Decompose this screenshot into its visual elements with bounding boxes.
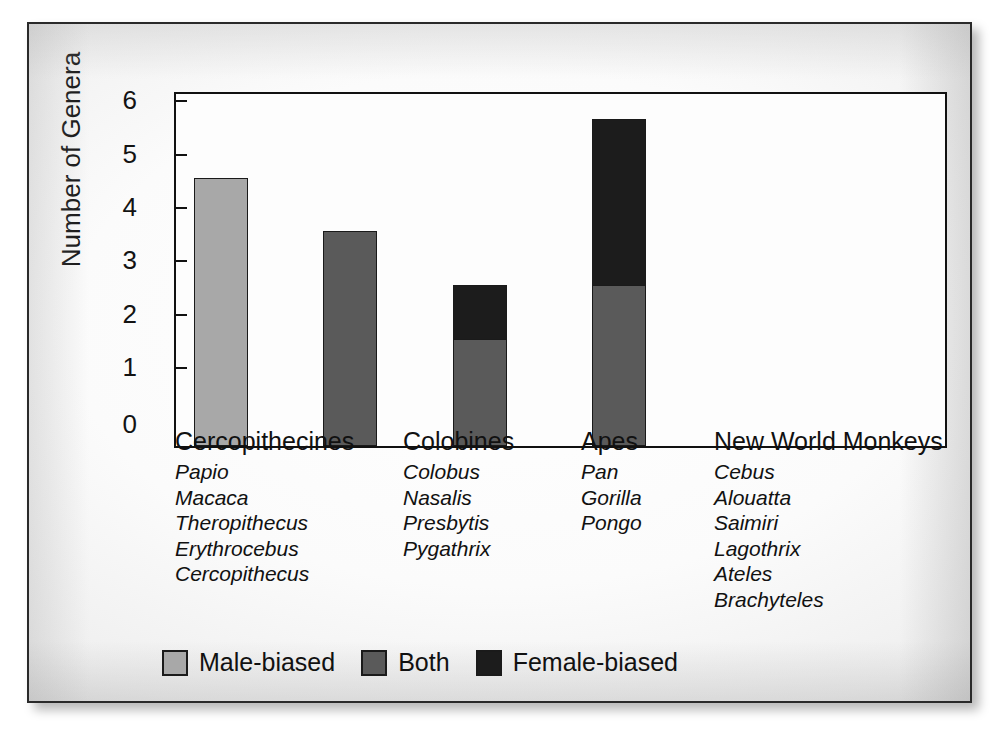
genus-name: Brachyteles [714,587,943,613]
genus-name: Papio [175,459,354,485]
y-axis-title: Number of Genera [56,10,87,310]
y-tick-mark-2 [174,314,187,316]
genus-name: Presbytis [403,510,514,536]
genus-name: Ateles [714,561,943,587]
category-group-new-world-monkeys: New World Monkeys Cebus Alouatta Saimiri… [714,428,943,613]
bar-colobines[interactable] [323,231,377,446]
genus-name: Pongo [581,510,642,536]
legend-label: Both [398,648,449,677]
bar-segment-both [323,231,377,446]
figure-card: Number of Genera 6 5 4 3 2 1 0 [27,22,972,703]
category-title: New World Monkeys [714,428,943,455]
y-tick-mark-5 [174,154,187,156]
genus-name: Macaca [175,485,354,511]
y-tick-label-2: 2 [107,301,137,327]
bar-segment-both [592,285,646,446]
y-tick-label-3: 3 [107,247,137,273]
genus-name: Erythrocebus [175,536,354,562]
legend-swatch-icon [476,650,502,676]
legend-item-both[interactable]: Both [361,648,449,677]
category-group-apes: Apes Pan Gorilla Pongo [581,428,642,536]
genus-name: Colobus [403,459,514,485]
genus-name: Pan [581,459,642,485]
legend-item-male-biased[interactable]: Male-biased [162,648,335,677]
plot-area [174,92,947,448]
y-tick-mark-4 [174,207,187,209]
y-tick-label-6: 6 [107,87,137,113]
y-tick-label-1: 1 [107,354,137,380]
genus-name: Alouatta [714,485,943,511]
bar-segment-female-biased [453,285,507,339]
genus-name: Gorilla [581,485,642,511]
legend-item-female-biased[interactable]: Female-biased [476,648,678,677]
genus-name: Cebus [714,459,943,485]
bar-segment-male-biased [194,178,248,446]
bar-apes[interactable] [453,285,507,446]
genus-name: Saimiri [714,510,943,536]
y-tick-mark-1 [174,367,187,369]
genus-name: Cercopithecus [175,561,354,587]
bar-segment-female-biased [592,119,646,285]
y-tick-label-0: 0 [107,411,137,437]
category-group-colobines: Colobines Colobus Nasalis Presbytis Pyga… [403,428,514,561]
legend-swatch-icon [361,650,387,676]
category-title: Apes [581,428,642,455]
figure-page: Number of Genera 6 5 4 3 2 1 0 [0,0,1005,740]
genus-name: Nasalis [403,485,514,511]
y-tick-mark-3 [174,260,187,262]
y-tick-label-5: 5 [107,141,137,167]
category-title: Cercopithecines [175,428,354,455]
legend-label: Male-biased [199,648,335,677]
category-title: Colobines [403,428,514,455]
genus-name: Pygathrix [403,536,514,562]
legend-swatch-icon [162,650,188,676]
category-group-cercopithecines: Cercopithecines Papio Macaca Theropithec… [175,428,354,587]
bar-cercopithecines[interactable] [194,178,248,446]
y-tick-mark-6 [174,100,187,102]
genus-name: Theropithecus [175,510,354,536]
chart-legend: Male-biased Both Female-biased [162,648,704,677]
genus-name: Lagothrix [714,536,943,562]
bar-new-world-monkeys[interactable] [592,119,646,446]
legend-label: Female-biased [513,648,678,677]
y-tick-label-4: 4 [107,194,137,220]
